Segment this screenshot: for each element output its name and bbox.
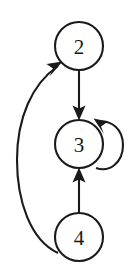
edge-4-to-2-path — [17, 66, 58, 253]
node-3-label: 3 — [74, 133, 85, 157]
graph-canvas: 2 3 4 — [0, 0, 131, 279]
node-3[interactable]: 3 — [55, 120, 103, 168]
edge-4-to-3 — [73, 168, 86, 214]
edge-2-to-3 — [73, 70, 86, 121]
graph-svg: 2 3 4 — [0, 0, 131, 279]
edge-4-to-2 — [17, 62, 63, 254]
node-4[interactable]: 4 — [55, 213, 103, 261]
node-2[interactable]: 2 — [55, 22, 103, 70]
node-2-label: 2 — [74, 35, 85, 59]
node-4-label: 4 — [74, 226, 85, 250]
